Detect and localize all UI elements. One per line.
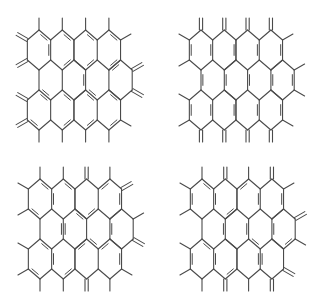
bond-line [98, 209, 110, 219]
substituent-line [180, 183, 190, 189]
bond-line [225, 239, 237, 249]
structure-bottom-left [18, 167, 144, 291]
bond-line [260, 209, 272, 219]
bond-line [213, 90, 225, 100]
bond-line [110, 269, 122, 279]
bond-line [51, 60, 63, 70]
bond-line [237, 209, 249, 219]
bond-line [224, 60, 236, 70]
substituent-line [121, 34, 131, 40]
bond-line [74, 120, 86, 130]
substituent-line [133, 213, 143, 219]
bond-line [98, 269, 110, 279]
bond-line [40, 269, 52, 279]
bond-line [225, 179, 237, 189]
bond-line [40, 209, 52, 219]
bond-line [122, 239, 134, 249]
bond-line [271, 30, 283, 40]
bond-line [260, 269, 272, 279]
bond-line [51, 120, 63, 130]
bond-line [248, 120, 260, 130]
substituent-line [179, 34, 189, 40]
substituent-line [283, 120, 293, 126]
bond-line [259, 90, 271, 100]
bond-line [224, 120, 236, 130]
substituent-line [283, 34, 293, 40]
bond-line [248, 60, 260, 70]
bond-line [52, 239, 64, 249]
structure-top-left [16, 18, 143, 142]
bond-line [260, 239, 272, 249]
substituent-line [18, 269, 28, 275]
bond-line [87, 269, 99, 279]
bond-line [213, 120, 225, 130]
bond-line [52, 179, 64, 189]
bond-line [214, 179, 226, 189]
substituent-line [295, 239, 305, 245]
bond-line [249, 209, 261, 219]
bond-line [189, 30, 201, 40]
bond-line [97, 30, 109, 40]
bond-line [224, 90, 236, 100]
bond-line [190, 179, 202, 189]
bond-line [74, 90, 86, 100]
bond-line [189, 90, 201, 100]
bond-line [27, 90, 39, 100]
substituent-line [18, 243, 28, 249]
bond-line [236, 30, 248, 40]
bond-line [189, 120, 201, 130]
bond-line [271, 90, 283, 100]
substituent-line [18, 209, 28, 215]
bond-line [283, 60, 295, 70]
bond-line [39, 60, 51, 70]
structure-top-right [179, 18, 305, 142]
bond-line [237, 269, 249, 279]
bond-line [97, 120, 109, 130]
bond-line [214, 239, 226, 249]
bond-line [51, 30, 63, 40]
substituent-line [180, 269, 190, 275]
bond-line [63, 239, 75, 249]
substituent-line [179, 94, 189, 100]
bond-line [272, 269, 284, 279]
bond-line [224, 30, 236, 40]
bond-line [190, 209, 202, 219]
bond-line [259, 120, 271, 130]
bond-line [236, 60, 248, 70]
bond-line [202, 209, 214, 219]
bond-line [248, 90, 260, 100]
bond-line [121, 60, 133, 70]
bond-line [51, 90, 63, 100]
bond-line [52, 209, 64, 219]
bond-line [249, 269, 261, 279]
substituent-line [180, 209, 190, 215]
bond-line [236, 90, 248, 100]
bond-line [28, 239, 40, 249]
bond-line [121, 90, 133, 100]
substituent-line [294, 64, 304, 70]
bond-line [283, 90, 295, 100]
bond-line [201, 120, 213, 130]
substituent-line [284, 183, 294, 189]
bond-line [74, 60, 86, 70]
bond-line [214, 209, 226, 219]
bond-line [97, 90, 109, 100]
structure-bottom-right [180, 167, 306, 291]
bond-line [63, 209, 75, 219]
substituent-line [179, 60, 189, 66]
bond-line [27, 60, 39, 70]
bond-line [271, 120, 283, 130]
figure-canvas [0, 0, 324, 304]
bond-line [201, 60, 213, 70]
bond-line [190, 239, 202, 249]
bond-line [284, 209, 296, 219]
substituent-line [180, 243, 190, 249]
bond-line [259, 60, 271, 70]
bond-line [201, 90, 213, 100]
bond-line [248, 30, 260, 40]
bond-line [39, 120, 51, 130]
bond-line [52, 269, 64, 279]
bond-line [28, 179, 40, 189]
bond-line [87, 179, 99, 189]
bond-line [236, 120, 248, 130]
